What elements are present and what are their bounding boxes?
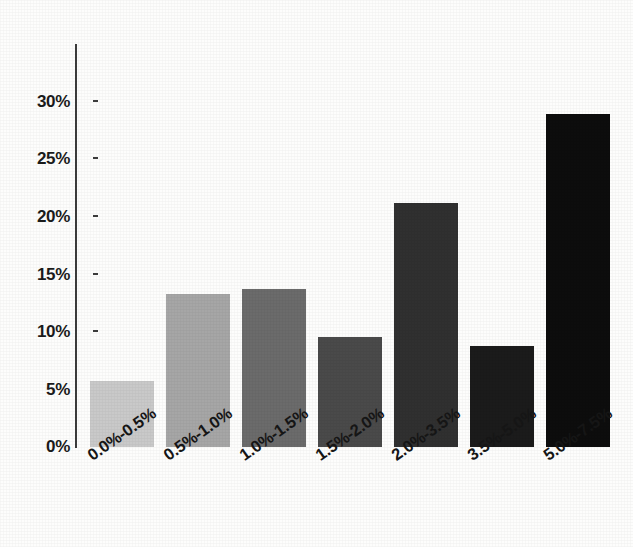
- y-tick-label: 30%: [26, 93, 70, 110]
- x-axis-tick-labels: 0.0%-0.5% 0.5%-1.0% 1.0%-1.5% 1.5%-2.0% …: [78, 449, 626, 547]
- y-tick-label: 25%: [26, 150, 70, 167]
- bar-chart: 30% 25% 20% 15% 10% 5% 0%: [0, 0, 633, 547]
- chart-page: 30% 25% 20% 15% 10% 5% 0%: [0, 0, 633, 547]
- y-tick-label: 10%: [26, 323, 70, 340]
- y-tick-label: 15%: [26, 266, 70, 283]
- bar-rect: [546, 114, 610, 448]
- y-tick-label: 0%: [26, 438, 70, 455]
- y-axis-line: [75, 44, 77, 448]
- y-tick-label: 20%: [26, 208, 70, 225]
- bar-6[interactable]: [546, 114, 610, 448]
- bar-series: [78, 44, 626, 447]
- y-axis-tick-labels: 30% 25% 20% 15% 10% 5% 0%: [22, 0, 70, 547]
- y-tick-label: 5%: [26, 381, 70, 398]
